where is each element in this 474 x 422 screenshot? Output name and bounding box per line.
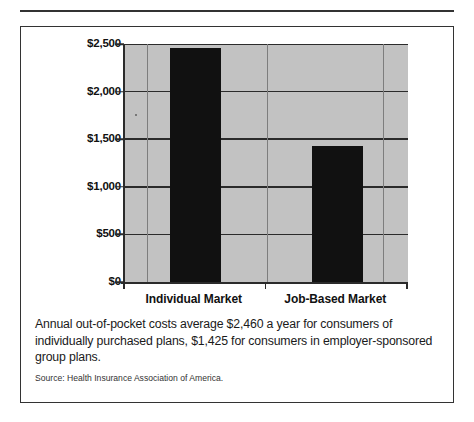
x-axis-category-label: Individual Market	[146, 292, 242, 306]
scan-artifact-speck	[135, 114, 137, 116]
y-axis-tick-mark	[115, 91, 124, 93]
figure-caption: Annual out-of-pocket costs average $2,46…	[35, 316, 439, 366]
y-axis-tick-label: $0	[25, 276, 121, 288]
bar-chart: $0$500$1,000$1,500$2,000$2,500 Individua…	[21, 27, 455, 297]
x-axis-tick-mark	[406, 282, 408, 289]
y-axis-tick-mark	[115, 43, 124, 45]
plot-inner	[125, 44, 408, 282]
x-axis-tick-mark	[123, 282, 125, 289]
y-axis-tick-label: $1,500	[25, 133, 121, 145]
y-axis-tick-label: $500	[25, 229, 121, 241]
y-axis-tick-label: $2,500	[25, 38, 121, 50]
x-axis-tick-mark	[265, 282, 267, 289]
vertical-gridline	[267, 44, 268, 282]
y-axis-tick-labels: $0$500$1,000$1,500$2,000$2,500	[21, 27, 121, 297]
figure-source: Source: Health Insurance Association of …	[35, 372, 439, 384]
y-axis-tick-mark	[115, 186, 124, 188]
y-axis-tick-mark	[115, 138, 124, 140]
figure-container: $0$500$1,000$1,500$2,000$2,500 Individua…	[20, 26, 454, 403]
vertical-gridline	[147, 44, 148, 282]
bar-job-based-market	[312, 146, 363, 282]
y-axis-tick-mark	[115, 234, 124, 236]
x-axis-category-label: Job-Based Market	[284, 292, 386, 306]
plot-area	[123, 44, 408, 282]
top-horizontal-rule	[20, 10, 454, 12]
bar-individual-market	[170, 48, 221, 282]
y-axis-tick-label: $2,000	[25, 86, 121, 98]
y-axis-tick-label: $1,000	[25, 181, 121, 193]
vertical-gridline	[383, 44, 384, 282]
